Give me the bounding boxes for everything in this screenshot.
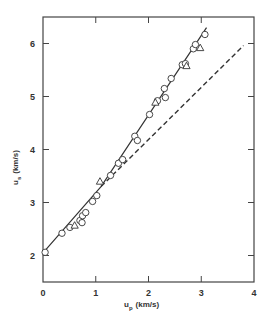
circle-data-point bbox=[83, 209, 89, 215]
x-tick-label: 4 bbox=[251, 288, 256, 298]
circle-data-point bbox=[192, 41, 198, 47]
circle-data-point bbox=[107, 172, 113, 178]
x-tick-label: 0 bbox=[40, 288, 45, 298]
circle-data-point bbox=[89, 198, 95, 204]
triangle-data-point bbox=[96, 178, 103, 184]
circle-data-point bbox=[59, 230, 65, 236]
y-tick-label: 2 bbox=[30, 251, 35, 261]
circle-data-point bbox=[161, 85, 167, 91]
data-points bbox=[42, 31, 208, 255]
plot-frame bbox=[43, 17, 254, 282]
circle-data-point bbox=[168, 75, 174, 81]
circle-data-point bbox=[162, 94, 168, 100]
circle-data-point bbox=[202, 31, 208, 37]
x-axis-label-units: (km/s) bbox=[136, 300, 160, 309]
circle-data-point bbox=[134, 137, 140, 143]
y-tick-label: 4 bbox=[30, 145, 35, 155]
circle-data-point bbox=[79, 219, 85, 225]
circle-data-point bbox=[94, 192, 100, 198]
y-axis-label-units: (km/s) bbox=[11, 150, 20, 174]
y-tick-label: 3 bbox=[30, 198, 35, 208]
y-tick-label: 5 bbox=[30, 92, 35, 102]
circle-data-point bbox=[42, 249, 48, 255]
fit-lines bbox=[43, 28, 243, 253]
circle-data-point bbox=[146, 111, 152, 117]
x-ticks: 01234 bbox=[40, 17, 256, 298]
x-tick-label: 2 bbox=[146, 288, 151, 298]
x-axis-label: up(km/s) bbox=[124, 300, 159, 311]
x-tick-label: 3 bbox=[199, 288, 204, 298]
x-axis-label-sub: p bbox=[129, 305, 133, 311]
chart: 01234 23456 up(km/s) us(km/s) bbox=[0, 0, 275, 323]
y-axis-label: us(km/s) bbox=[11, 150, 22, 185]
y-tick-label: 6 bbox=[30, 39, 35, 49]
y-axis-label-sub: s bbox=[16, 176, 22, 180]
y-ticks: 23456 bbox=[30, 39, 254, 261]
circle-data-point bbox=[119, 156, 125, 162]
x-tick-label: 1 bbox=[93, 288, 98, 298]
dashed-extrapolation-line bbox=[101, 46, 243, 187]
